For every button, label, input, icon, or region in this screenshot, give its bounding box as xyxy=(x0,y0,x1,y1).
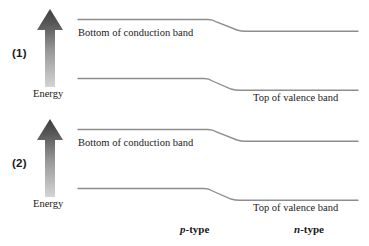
panel-1-energy-axis-label: Energy xyxy=(33,89,63,100)
panel-2-conduction-band-label: Bottom of conduction band xyxy=(78,138,193,149)
energy-arrow-2 xyxy=(37,119,63,197)
ntype-suffix: -type xyxy=(300,223,324,235)
energy-arrow-1 xyxy=(37,9,63,87)
panel-1-valence-band-label: Top of valence band xyxy=(253,93,338,104)
panel-1-case-label: (1) xyxy=(12,48,27,60)
ptype-suffix: -type xyxy=(186,223,210,235)
panel-1-conduction-band-label: Bottom of conduction band xyxy=(78,28,193,39)
ptype-region-label: p-type xyxy=(180,224,209,235)
figure-canvas: (1) (2) Energy Energy Bottom of conducti… xyxy=(0,0,369,246)
ntype-region-label: n-type xyxy=(294,224,324,235)
valence-band-line-2 xyxy=(78,189,358,201)
valence-band-line-1 xyxy=(78,79,358,91)
panel-2-case-label: (2) xyxy=(12,158,27,170)
panel-2-valence-band-label: Top of valence band xyxy=(253,203,338,214)
panel-2-energy-axis-label: Energy xyxy=(33,199,63,210)
